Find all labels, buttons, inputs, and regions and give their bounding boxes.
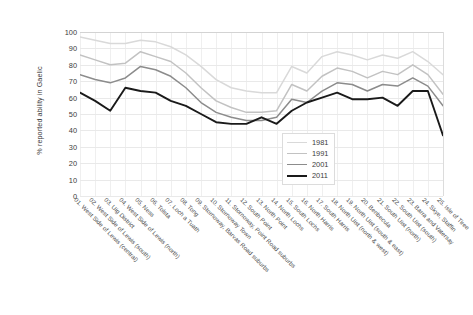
legend-swatch-1991 (287, 153, 307, 154)
legend-swatch-1981 (287, 142, 307, 143)
y-axis-tick-labels: 1009080706050403020100 (55, 26, 77, 202)
legend-item-2011: 2011 (287, 170, 328, 181)
y-tick-label: 20 (55, 159, 77, 168)
y-tick-label: 10 (55, 175, 77, 184)
plot-area (80, 32, 443, 196)
y-axis-title: % reported ability in Gaelic (35, 26, 44, 196)
x-axis-category-labels: 01. West Side of Lewis (central)02. West… (0, 196, 473, 315)
series-line-1981 (80, 37, 443, 93)
y-tick-label: 70 (55, 77, 77, 86)
y-tick-label: 100 (55, 28, 77, 37)
legend-label: 1991 (312, 149, 328, 158)
legend-swatch-2011 (287, 175, 307, 177)
series-line-1991 (80, 52, 443, 113)
y-tick-label: 80 (55, 60, 77, 69)
legend-swatch-2001 (287, 164, 307, 165)
vertical-gridline (443, 32, 444, 196)
legend: 1981199120012011 (282, 133, 335, 185)
series-line-2011 (80, 88, 443, 136)
y-tick-label: 60 (55, 93, 77, 102)
legend-label: 2011 (312, 171, 328, 180)
legend-label: 2001 (312, 160, 328, 169)
y-tick-label: 40 (55, 126, 77, 135)
gaelic-ability-line-chart: % reported ability in Gaelic 10090807060… (0, 0, 473, 315)
y-tick-label: 90 (55, 44, 77, 53)
series-lines (80, 32, 443, 196)
legend-label: 1981 (312, 138, 328, 147)
y-tick-label: 50 (55, 110, 77, 119)
legend-item-1991: 1991 (287, 148, 328, 159)
legend-item-2001: 2001 (287, 159, 328, 170)
legend-item-1981: 1981 (287, 137, 328, 148)
y-tick-label: 30 (55, 142, 77, 151)
